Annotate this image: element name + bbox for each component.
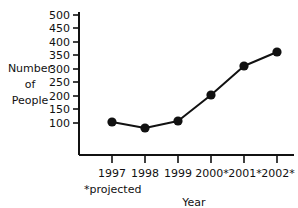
data-point-1999[interactable] xyxy=(173,116,182,125)
x-tick-label-1999: 1999 xyxy=(164,167,192,180)
x-tick-label-1998: 1998 xyxy=(131,167,159,180)
x-axis-title: Year xyxy=(181,196,206,208)
y-axis-title: Number of People xyxy=(8,62,53,107)
line-chart: 500 450 400 350 300 250 200 150 100 1997… xyxy=(0,0,298,208)
y-tick-label-300: 300 xyxy=(49,63,70,76)
y-tick-label-450: 450 xyxy=(49,22,70,35)
projected-footnote: *projected xyxy=(84,183,141,196)
x-tick-marks xyxy=(112,155,277,163)
x-tick-label-2002: 2002* xyxy=(261,167,295,180)
data-point-2002[interactable] xyxy=(272,47,281,56)
y-tick-label-500: 500 xyxy=(49,9,70,22)
y-tick-label-100: 100 xyxy=(49,117,70,130)
chart-canvas: 500 450 400 350 300 250 200 150 100 1997… xyxy=(0,0,298,208)
y-axis-title-line-1: Number xyxy=(8,62,53,75)
y-tick-label-150: 150 xyxy=(49,103,70,116)
y-axis-title-line-3: People xyxy=(12,94,49,107)
y-tick-label-400: 400 xyxy=(49,36,70,49)
y-tick-labels: 500 450 400 350 300 250 200 150 100 xyxy=(49,9,70,130)
y-tick-label-200: 200 xyxy=(49,90,70,103)
data-point-2000[interactable] xyxy=(206,90,215,99)
data-line xyxy=(112,52,277,128)
y-axis-title-line-2: of xyxy=(25,78,37,91)
data-point-1998[interactable] xyxy=(140,123,149,132)
y-tick-label-250: 250 xyxy=(49,76,70,89)
data-point-2001[interactable] xyxy=(239,61,248,70)
axes-group xyxy=(79,12,294,155)
x-tick-label-2000: 2000* xyxy=(195,167,229,180)
y-tick-label-350: 350 xyxy=(49,49,70,62)
x-tick-label-2001: 2001* xyxy=(228,167,262,180)
x-tick-label-1997: 1997 xyxy=(98,167,126,180)
data-point-1997[interactable] xyxy=(107,117,116,126)
x-tick-labels: 1997 1998 1999 2000* 2001* 2002* xyxy=(98,167,295,180)
